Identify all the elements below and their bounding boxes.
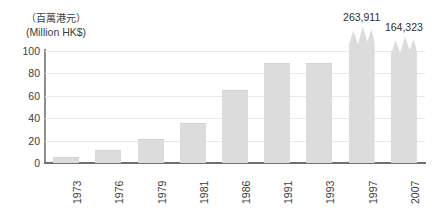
plot-area: 263,911164,323 (45, 51, 425, 163)
unit-label-english: (Million HK$) (26, 26, 86, 39)
x-axis-tick-label-1976: 1976 (113, 166, 125, 204)
x-axis-tick-label-1981: 1981 (198, 166, 210, 204)
x-axis-tick-label-1991: 1991 (282, 166, 294, 204)
bar-1991 (264, 63, 290, 163)
x-axis-tick-label-1973: 1973 (71, 166, 83, 204)
bar-1986 (222, 90, 248, 163)
unit-label-chinese: （百萬港元） (26, 13, 86, 26)
x-axis-tick-label-1997: 1997 (367, 166, 379, 204)
y-axis-tick-labels: 020406080100 (0, 51, 40, 163)
bar-1973 (53, 157, 79, 163)
y-axis-tick-label: 20 (4, 135, 40, 147)
y-axis-tick-label: 100 (4, 45, 40, 57)
y-axis-tick-label: 60 (4, 90, 40, 102)
bar-value-label-2007: 164,323 (374, 21, 433, 33)
bar-1976 (95, 150, 121, 163)
bar-1993 (306, 63, 332, 163)
chart-unit-header: （百萬港元） (Million HK$) (26, 13, 86, 38)
bar-1981 (180, 123, 206, 163)
bar-chart: （百萬港元） (Million HK$) 020406080100 263,91… (0, 0, 433, 208)
bar-1979 (138, 139, 164, 163)
x-axis-tick-label-1986: 1986 (240, 166, 252, 204)
x-axis-tick-label-2007: 2007 (409, 166, 421, 204)
y-axis-tick-label: 80 (4, 67, 40, 79)
x-axis-tick-labels: 197319761979198119861991199319972007 (45, 166, 425, 208)
y-axis-tick-label: 0 (4, 157, 40, 169)
y-axis-tick-label: 40 (4, 112, 40, 124)
bar-2007 (391, 36, 417, 163)
bar-1997 (349, 26, 375, 163)
x-axis-tick-label-1979: 1979 (156, 166, 168, 204)
x-axis-tick-label-1993: 1993 (324, 166, 336, 204)
